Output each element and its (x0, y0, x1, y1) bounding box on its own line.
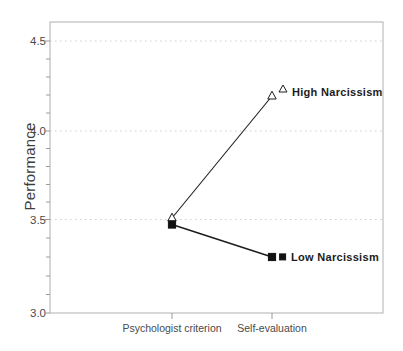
series-line-high-narcissism (172, 96, 272, 218)
plot-area (0, 0, 403, 351)
performance-narcissism-line-chart: Performance 3.0 3.5 4.0 4.5 Psychologist… (0, 0, 403, 351)
series-high-narcissism (168, 91, 276, 221)
marker-low-narcissism-psychologist-criterion (168, 221, 175, 228)
y-axis-ticks (44, 41, 50, 313)
series-label-low-narcissism: Low Narcissism (291, 251, 379, 263)
series-low-narcissism (168, 221, 275, 261)
gridlines (50, 41, 383, 220)
marker-low-narcissism-self-evaluation (268, 253, 275, 260)
legend-marker-low-narcissism-icon (280, 254, 286, 260)
plot-frame (50, 22, 383, 313)
series-line-low-narcissism (172, 225, 272, 258)
marker-high-narcissism-self-evaluation (268, 91, 276, 99)
legend-marker-high-narcissism-icon (279, 85, 287, 92)
x-axis-ticks (172, 313, 272, 319)
series-label-high-narcissism: High Narcissism (292, 86, 383, 98)
